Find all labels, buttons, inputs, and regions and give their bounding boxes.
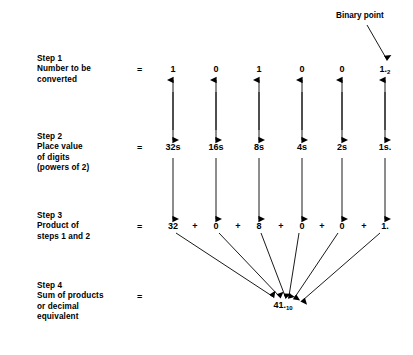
step-4-equals-sign: = (137, 292, 142, 302)
binary-point-label: Binary point (336, 11, 384, 21)
binary-digit-6-text: 1. (380, 64, 388, 74)
product-5: 0 (339, 221, 344, 231)
sum-base-subscript: 10 (286, 305, 293, 311)
step-2-equals-sign: = (137, 143, 142, 153)
product-2-text: 0 (213, 221, 218, 231)
binary-digit-2-text: 0 (213, 64, 218, 74)
arrows-step1-to-step2 (173, 80, 385, 130)
step-4-label: Step 4 Sum of products or decimal equiva… (37, 281, 104, 323)
product-4: 0 (299, 221, 304, 231)
product-6: 1. (381, 221, 389, 231)
place-value-3-text: 8s (254, 142, 264, 152)
binary-digit-6: 1.2 (380, 64, 391, 75)
product-4-text: 0 (299, 221, 304, 231)
step-3-equals-sign: = (137, 222, 142, 232)
product-2: 0 (213, 221, 218, 231)
product-6-text: 1. (381, 221, 389, 231)
binary-digit-1-text: 1 (170, 64, 175, 74)
binary-digit-3: 1 (256, 64, 261, 74)
arrows-place-values-to-products (173, 158, 385, 219)
step-3-label: Step 3 Product of steps 1 and 2 (37, 211, 90, 242)
product-3: 8 (256, 221, 261, 231)
binary-digit-5: 0 (339, 64, 344, 74)
place-value-5: 2s (337, 142, 347, 152)
product-1-text: 32 (168, 221, 178, 231)
product-5-text: 0 (339, 221, 344, 231)
arrows-into-place-values (173, 92, 385, 140)
product-3-text: 8 (256, 221, 261, 231)
place-value-3: 8s (254, 142, 264, 152)
binary-point-arrow (367, 25, 386, 58)
binary-digit-4: 0 (299, 64, 304, 74)
step-2-label: Step 2 Place value of digits (powers of … (37, 132, 89, 174)
place-value-6: 1s. (379, 142, 392, 152)
place-value-2-text: 16s (208, 142, 223, 152)
plus-sign-5: + (361, 221, 366, 231)
binary-digit-4-text: 0 (299, 64, 304, 74)
sum-result: 41.10 (273, 300, 292, 311)
step-1-label: Step 1 Number to be converted (37, 54, 91, 85)
binary-digit-3-text: 1 (256, 64, 261, 74)
plus-sign-3: + (278, 221, 283, 231)
place-value-4-text: 4s (297, 142, 307, 152)
binary-to-decimal-conversion-figure: Binary point Step 1 Number to be convert… (0, 0, 413, 355)
place-value-6-text: 1s. (379, 142, 392, 152)
plus-sign-1: + (192, 221, 197, 231)
place-value-5-text: 2s (337, 142, 347, 152)
plus-sign-4: + (319, 221, 324, 231)
place-value-1: 32s (165, 142, 180, 152)
product-1: 32 (168, 221, 178, 231)
arrows-products-to-sum (176, 233, 380, 300)
binary-digit-1: 1 (170, 64, 175, 74)
sum-value: 41. (273, 300, 286, 310)
step-1-equals-sign: = (137, 65, 142, 75)
place-value-2: 16s (208, 142, 223, 152)
binary-digit-2: 0 (213, 64, 218, 74)
binary-digit-6-subscript: 2 (387, 69, 390, 75)
plus-sign-2: + (235, 221, 240, 231)
place-value-4: 4s (297, 142, 307, 152)
place-value-1-text: 32s (165, 142, 180, 152)
binary-digit-5-text: 0 (339, 64, 344, 74)
